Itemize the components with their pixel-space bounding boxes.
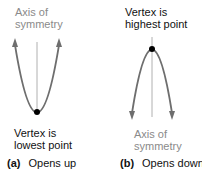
caption-a-text: Opens up	[28, 157, 76, 169]
axis-label-a-line2: symmetry	[15, 18, 63, 30]
vertex-label-b-line2: highest point	[125, 18, 187, 30]
caption-b: (b)Opens down	[120, 157, 202, 169]
axis-label-b-line2: symmetry	[134, 140, 182, 152]
vertex-label-b-line1: Vertex is	[125, 6, 187, 18]
vertex-label-a: Vertex is lowest point	[14, 127, 72, 151]
axis-label-a-line1: Axis of	[15, 6, 63, 18]
vertex-label-a-line1: Vertex is	[14, 127, 72, 139]
arrow-up-left-icon	[12, 38, 18, 47]
arrow-up-right-icon	[56, 38, 62, 47]
axis-label-b-line1: Axis of	[134, 128, 182, 140]
caption-a: (a)Opens up	[7, 157, 76, 169]
axis-label-b: Axis of symmetry	[134, 128, 182, 152]
axis-label-a: Axis of symmetry	[15, 6, 63, 30]
arrow-down-left-icon	[129, 111, 135, 120]
caption-a-letter: (a)	[7, 157, 20, 169]
vertex-point-a	[34, 109, 40, 115]
vertex-point-b	[149, 46, 155, 52]
vertex-label-a-line2: lowest point	[14, 139, 72, 151]
caption-b-letter: (b)	[120, 157, 134, 169]
caption-b-text: Opens down	[142, 157, 202, 169]
vertex-label-b: Vertex is highest point	[125, 6, 187, 30]
arrow-down-right-icon	[169, 111, 175, 120]
